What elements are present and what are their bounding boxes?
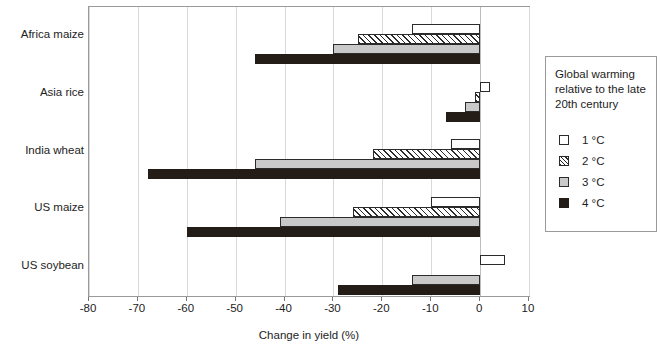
x-axis-ticks: -80-70-60-50-40-30-20-10010 — [88, 297, 530, 317]
x-tick-mark — [430, 297, 431, 301]
bar[interactable] — [446, 112, 480, 122]
legend-item-label: 2 °C — [582, 155, 605, 167]
legend-item[interactable]: 2 °C — [555, 150, 656, 171]
y-axis-label: US maize — [0, 201, 84, 214]
x-tick-mark — [381, 297, 382, 301]
x-tick-mark — [284, 297, 285, 301]
x-tick-mark — [479, 297, 480, 301]
chart-legend: Global warming relative to the late 20th… — [545, 56, 657, 232]
legend-items: 1 °C2 °C3 °C4 °C — [555, 129, 656, 213]
bar[interactable] — [431, 197, 480, 207]
plot-area — [88, 6, 530, 297]
x-tick-mark — [137, 297, 138, 301]
x-tick-label: -40 — [275, 302, 292, 314]
y-axis-label: Asia rice — [0, 86, 84, 99]
gridline — [529, 7, 530, 296]
bar[interactable] — [412, 275, 480, 285]
bar[interactable] — [358, 34, 480, 44]
y-axis-label: US soybean — [0, 259, 84, 272]
bar[interactable] — [475, 92, 480, 102]
bar-group — [89, 7, 529, 65]
bar[interactable] — [255, 159, 480, 169]
x-tick-label: -20 — [373, 302, 390, 314]
legend-item-label: 1 °C — [582, 134, 605, 146]
x-tick-label: -10 — [422, 302, 439, 314]
legend-item[interactable]: 1 °C — [555, 129, 656, 150]
legend-item-label: 4 °C — [582, 197, 605, 209]
x-tick-label: 10 — [522, 302, 535, 314]
bar[interactable] — [480, 255, 504, 265]
bar[interactable] — [373, 149, 481, 159]
x-tick-label: -80 — [80, 302, 97, 314]
x-tick-label: 0 — [476, 302, 482, 314]
bar-group — [89, 238, 529, 296]
x-tick-label: -50 — [226, 302, 243, 314]
bar[interactable] — [187, 227, 480, 237]
legend-swatch-icon — [559, 135, 569, 145]
y-axis-label: India wheat — [0, 144, 84, 157]
legend-item[interactable]: 3 °C — [555, 171, 656, 192]
chart-figure: Africa maizeAsia riceIndia wheatUS maize… — [0, 0, 662, 358]
y-axis-category-labels: Africa maizeAsia riceIndia wheatUS maize… — [0, 6, 84, 297]
y-axis-label: Africa maize — [0, 28, 84, 41]
legend-item[interactable]: 4 °C — [555, 192, 656, 213]
bar[interactable] — [333, 44, 480, 54]
x-tick-label: -70 — [129, 302, 146, 314]
x-tick-mark — [235, 297, 236, 301]
bar[interactable] — [255, 54, 480, 64]
bar[interactable] — [353, 207, 480, 217]
x-axis-title: Change in yield (%) — [88, 329, 530, 341]
bar[interactable] — [338, 285, 480, 295]
bar[interactable] — [480, 82, 490, 92]
legend-swatch-icon — [559, 198, 569, 208]
bar-group — [89, 180, 529, 238]
bar[interactable] — [148, 169, 480, 179]
x-tick-mark — [186, 297, 187, 301]
x-tick-label: -60 — [177, 302, 194, 314]
bar[interactable] — [465, 102, 480, 112]
legend-item-label: 3 °C — [582, 176, 605, 188]
bar[interactable] — [451, 139, 480, 149]
bar[interactable] — [412, 24, 480, 34]
bar-group — [89, 123, 529, 181]
bar[interactable] — [280, 217, 480, 227]
x-tick-mark — [332, 297, 333, 301]
legend-swatch-icon — [559, 177, 569, 187]
x-tick-mark — [528, 297, 529, 301]
x-tick-label: -30 — [324, 302, 341, 314]
x-tick-mark — [88, 297, 89, 301]
legend-title: Global warming relative to the late 20th… — [555, 67, 655, 112]
legend-swatch-icon — [559, 156, 569, 166]
bar-group — [89, 65, 529, 123]
